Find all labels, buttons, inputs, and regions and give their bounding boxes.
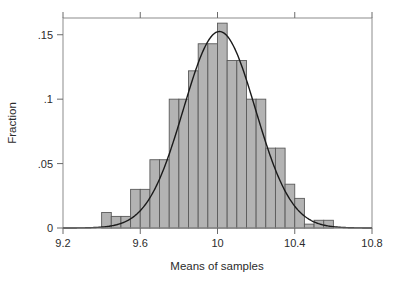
histogram-bar bbox=[285, 184, 295, 228]
histogram-bar bbox=[295, 198, 305, 228]
y-axis-title: Fraction bbox=[6, 102, 18, 144]
x-tick-label: 10 bbox=[211, 237, 223, 249]
histogram-bar bbox=[198, 44, 208, 228]
histogram-chart: 9.29.61010.410.8 0.05.1.15 Means of samp… bbox=[0, 0, 393, 282]
histogram-bar bbox=[304, 224, 314, 228]
x-axis-ticks bbox=[63, 228, 372, 234]
histogram-bar bbox=[160, 160, 170, 228]
y-tick-label: .1 bbox=[44, 93, 53, 105]
histogram-bar bbox=[218, 23, 228, 228]
histogram-bar bbox=[189, 71, 199, 228]
x-tick-label: 9.6 bbox=[133, 237, 148, 249]
y-axis-tick-labels: 0.05.1.15 bbox=[38, 29, 53, 234]
histogram-bar bbox=[169, 99, 179, 228]
histogram-bar bbox=[246, 99, 256, 228]
histogram-bar bbox=[131, 189, 141, 228]
x-tick-label: 9.2 bbox=[55, 237, 70, 249]
y-axis-ticks bbox=[57, 35, 63, 228]
x-axis-top-ticks bbox=[63, 12, 372, 18]
histogram-bar bbox=[208, 44, 218, 228]
histogram-bar bbox=[266, 148, 276, 228]
y-tick-label: .05 bbox=[38, 158, 53, 170]
histogram-bar bbox=[237, 61, 247, 228]
y-tick-label: .15 bbox=[38, 29, 53, 41]
y-tick-label: 0 bbox=[47, 222, 53, 234]
chart-figure: 9.29.61010.410.8 0.05.1.15 Means of samp… bbox=[0, 0, 393, 282]
x-axis-tick-labels: 9.29.61010.410.8 bbox=[55, 237, 382, 249]
x-tick-label: 10.4 bbox=[284, 237, 305, 249]
x-axis-title: Means of samples bbox=[170, 260, 264, 272]
histogram-bar bbox=[150, 160, 160, 228]
x-tick-label: 10.8 bbox=[361, 237, 382, 249]
histogram-bar bbox=[227, 61, 237, 228]
